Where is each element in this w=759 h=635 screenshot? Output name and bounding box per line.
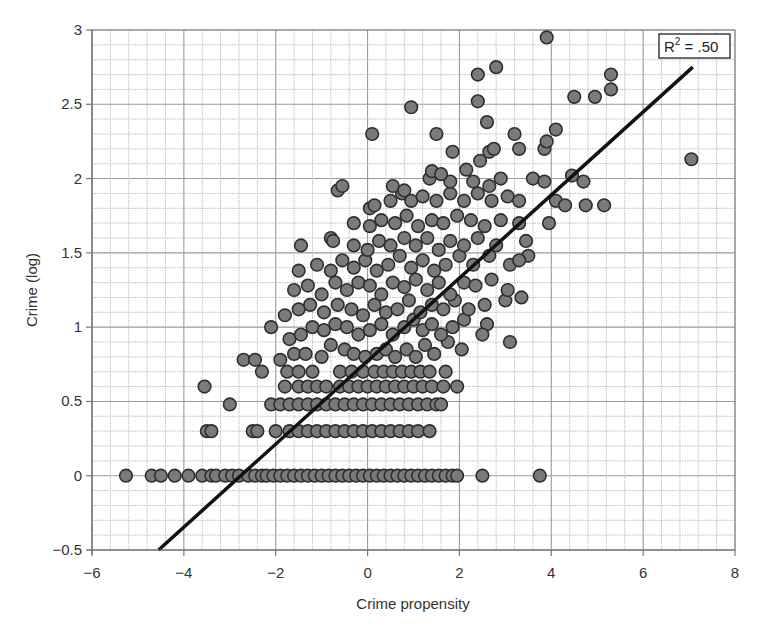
data-point <box>288 284 301 297</box>
data-point <box>446 146 459 159</box>
r2-base: R <box>664 38 675 55</box>
data-point <box>329 318 342 331</box>
data-points <box>120 31 698 482</box>
data-point <box>508 128 521 141</box>
data-point <box>389 217 402 230</box>
data-point <box>265 321 278 334</box>
data-point <box>515 291 528 304</box>
data-point <box>451 469 464 482</box>
data-point <box>295 239 308 252</box>
data-point <box>364 279 377 292</box>
data-point <box>366 128 379 141</box>
data-point <box>336 180 349 193</box>
data-point <box>393 250 406 263</box>
data-point <box>382 258 395 271</box>
data-point <box>347 239 360 252</box>
data-point <box>306 365 319 378</box>
data-point <box>501 284 514 297</box>
data-point <box>504 336 517 349</box>
data-point <box>451 209 464 222</box>
data-point <box>336 254 349 267</box>
data-point <box>331 299 344 312</box>
data-point <box>579 199 592 212</box>
data-point <box>409 273 422 286</box>
data-point <box>168 469 181 482</box>
data-point <box>368 199 381 212</box>
data-point <box>455 343 468 356</box>
data-point <box>437 380 450 393</box>
x-tick-label: 0 <box>363 564 371 581</box>
data-point <box>483 180 496 193</box>
data-point <box>513 254 526 267</box>
data-point <box>490 61 503 74</box>
data-point <box>311 258 324 271</box>
data-point <box>430 128 443 141</box>
data-point <box>430 195 443 208</box>
data-point <box>460 163 473 176</box>
data-point <box>458 195 471 208</box>
x-tick-label: 6 <box>639 564 647 581</box>
data-point <box>598 199 611 212</box>
data-point <box>451 380 464 393</box>
data-point <box>437 303 450 316</box>
data-point <box>481 116 494 129</box>
data-point <box>329 276 342 289</box>
data-point <box>494 172 507 185</box>
data-point <box>472 95 485 108</box>
data-point <box>315 351 328 364</box>
data-point <box>435 168 448 181</box>
data-point <box>405 101 418 114</box>
data-point <box>347 217 360 230</box>
data-point <box>685 153 698 166</box>
data-point <box>568 91 581 104</box>
data-point <box>605 83 618 96</box>
data-point <box>478 299 491 312</box>
data-point <box>428 264 441 277</box>
data-point <box>120 469 133 482</box>
data-point <box>432 276 445 289</box>
data-point <box>364 324 377 337</box>
x-tick-label: −6 <box>83 564 100 581</box>
data-point <box>446 321 459 334</box>
data-point <box>421 232 434 245</box>
data-point <box>476 469 489 482</box>
data-point <box>423 365 436 378</box>
data-point <box>327 235 340 248</box>
axes: −0.500.511.522.53−6−4−202468 <box>52 21 739 581</box>
data-point <box>182 469 195 482</box>
data-point <box>485 195 498 208</box>
y-tick-label: 1.5 <box>61 244 82 261</box>
data-point <box>538 175 551 188</box>
data-point <box>423 425 436 438</box>
data-point <box>559 199 572 212</box>
data-point <box>347 261 360 274</box>
data-point <box>605 68 618 81</box>
data-point <box>380 306 393 319</box>
y-tick-label: −0.5 <box>52 541 82 558</box>
data-point <box>472 232 485 245</box>
data-point <box>426 318 439 331</box>
data-point <box>398 281 411 294</box>
data-point <box>318 324 331 337</box>
data-point <box>249 354 262 367</box>
data-point <box>279 380 292 393</box>
data-point <box>409 351 422 364</box>
data-point <box>428 348 441 361</box>
data-point <box>444 187 457 200</box>
data-point <box>435 398 448 411</box>
data-point <box>513 195 526 208</box>
data-point <box>384 195 397 208</box>
data-point <box>485 273 498 286</box>
y-tick-label: 2.5 <box>61 95 82 112</box>
data-point <box>472 187 485 200</box>
data-point <box>534 469 547 482</box>
data-point <box>540 135 553 148</box>
data-point <box>361 244 374 257</box>
data-point <box>320 380 333 393</box>
data-point <box>476 328 489 341</box>
data-point <box>398 184 411 197</box>
data-point <box>458 239 471 252</box>
data-point <box>432 244 445 257</box>
data-point <box>325 264 338 277</box>
x-tick-label: 4 <box>547 564 555 581</box>
